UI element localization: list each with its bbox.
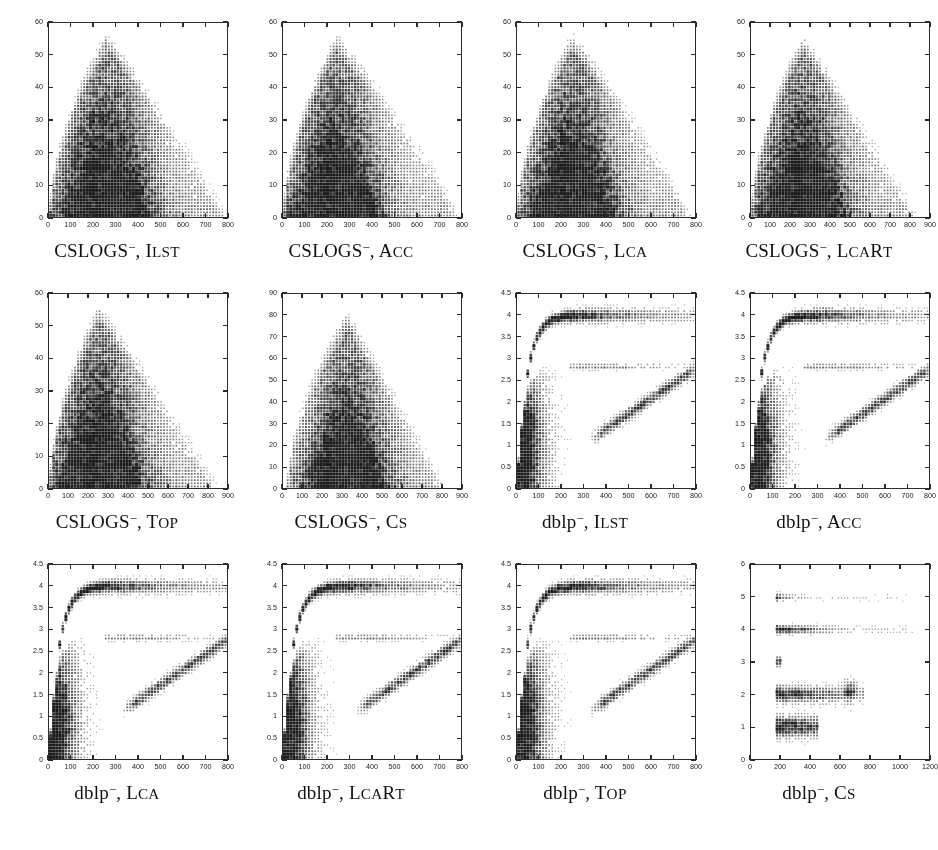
x-tick [769, 213, 770, 218]
plot-area: 01020304050600100200300400500600700800 [234, 8, 468, 236]
y-tick [48, 456, 53, 457]
y-tick-label: 60 [269, 18, 277, 25]
axes-frame [750, 564, 930, 760]
y-tick [750, 87, 755, 88]
panel-caption: dblp−, LCA [0, 778, 234, 806]
y-tick-label: 3.5 [735, 333, 745, 340]
x-tick [907, 484, 908, 489]
scatter-markers [283, 23, 461, 217]
y-tick [282, 488, 287, 489]
x-tick [628, 484, 629, 489]
y-tick-right [223, 87, 228, 88]
y-tick-right [691, 651, 696, 652]
x-tick [70, 755, 71, 760]
x-tick-label: 1200 [922, 763, 938, 770]
y-tick-label: 0 [507, 214, 511, 221]
y-tick [516, 585, 521, 586]
y-tick-label: 30 [737, 116, 745, 123]
x-tick-top [650, 293, 651, 298]
x-tick-label: 700 [416, 492, 428, 499]
x-tick [515, 213, 516, 218]
x-tick-label: 700 [668, 221, 680, 228]
x-tick-label: 700 [668, 492, 680, 499]
y-tick-label: 3.5 [33, 604, 43, 611]
y-tick-label: 0.5 [735, 464, 745, 471]
y-tick-right [691, 119, 696, 120]
panel-row-2: 0102030405060010020030040050060070080090… [0, 279, 936, 550]
y-tick-right [457, 401, 462, 402]
axes-frame [282, 22, 462, 218]
x-tick [583, 755, 584, 760]
x-tick [605, 484, 606, 489]
y-tick [48, 563, 53, 564]
x-tick-label: 300 [578, 763, 590, 770]
y-tick [516, 217, 521, 218]
x-tick-top [67, 293, 68, 298]
x-tick-top [281, 293, 282, 298]
x-tick-label: 0 [280, 221, 284, 228]
x-tick [695, 213, 696, 218]
x-tick [605, 213, 606, 218]
axes-frame [516, 564, 696, 760]
x-tick-top [461, 293, 462, 298]
y-tick-label: 4 [507, 582, 511, 589]
y-tick-right [223, 694, 228, 695]
panel-5: 0102030405060010020030040050060070080090… [0, 279, 234, 550]
y-tick-label: 10 [269, 182, 277, 189]
x-tick-label: 100 [62, 492, 74, 499]
y-tick [282, 423, 287, 424]
x-tick-label: 300 [110, 221, 122, 228]
y-tick [516, 651, 521, 652]
x-tick-top [809, 564, 810, 569]
y-tick-label: 3 [741, 658, 745, 665]
y-tick-right [223, 672, 228, 673]
x-tick [515, 755, 516, 760]
x-tick-top [304, 564, 305, 569]
x-tick [127, 484, 128, 489]
x-tick-label: 100 [764, 221, 776, 228]
y-tick [750, 380, 755, 381]
x-tick-top [749, 293, 750, 298]
x-tick-top [461, 22, 462, 27]
y-tick-label: 2.5 [501, 377, 511, 384]
y-tick-label: 0.5 [267, 735, 277, 742]
x-tick [439, 213, 440, 218]
x-tick-label: 200 [784, 221, 796, 228]
panel-7: 00.511.522.533.544.501002003004005006007… [468, 279, 702, 550]
y-tick-label: 2 [273, 669, 277, 676]
y-tick-label: 20 [35, 149, 43, 156]
y-tick-right [925, 336, 930, 337]
panel-caption: CSLOGS−, LCART [702, 236, 936, 264]
y-tick-right [691, 585, 696, 586]
y-tick-label: 0 [741, 485, 745, 492]
x-tick-top [628, 22, 629, 27]
y-tick [750, 661, 755, 662]
y-tick [750, 488, 755, 489]
x-tick [47, 213, 48, 218]
x-tick-top [560, 564, 561, 569]
x-tick [341, 484, 342, 489]
x-tick [70, 213, 71, 218]
panel-3: 01020304050600100200300400500600700800CS… [468, 8, 702, 279]
y-tick [48, 716, 53, 717]
x-tick-top [583, 564, 584, 569]
x-tick [461, 755, 462, 760]
panel-caption: dblp−, TOP [468, 778, 702, 806]
plot-area: 00.511.522.533.544.501002003004005006007… [468, 550, 702, 778]
y-tick-right [457, 87, 462, 88]
x-tick-top [167, 293, 168, 298]
y-tick-right [457, 336, 462, 337]
x-tick-top [829, 22, 830, 27]
x-tick [772, 484, 773, 489]
x-tick-top [789, 22, 790, 27]
y-tick [282, 380, 287, 381]
y-tick-label: 60 [269, 355, 277, 362]
y-tick-label: 60 [737, 18, 745, 25]
x-tick [560, 755, 561, 760]
y-tick [750, 759, 755, 760]
y-tick [282, 563, 287, 564]
x-tick-label: 600 [162, 492, 174, 499]
x-tick-label: 100 [296, 492, 308, 499]
x-tick-top [628, 564, 629, 569]
